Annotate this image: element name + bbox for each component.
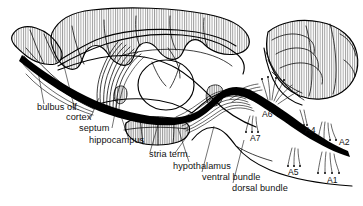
label-a4: A4 (305, 126, 316, 135)
label-septum: septum (79, 124, 109, 133)
label-a7: A7 (250, 134, 261, 143)
a7-cell-group-fibers (245, 116, 259, 133)
label-stria-term: stria term. (149, 150, 190, 159)
label-hypothalamus: hypothalamus (173, 162, 231, 171)
a1-cell-group-fibers (317, 152, 340, 174)
label-a1: A1 (327, 176, 338, 185)
label-hippocampus: hippocampus (89, 136, 144, 145)
label-bulbus-olf: bulbus olf. (37, 103, 79, 112)
label-a2: A2 (339, 138, 350, 147)
label-cortex: cortex (66, 113, 91, 122)
a5-cell-group-fibers (287, 148, 301, 167)
label-dorsal-bundle: dorsal bundle (232, 184, 288, 193)
cerebellum-structure (262, 14, 362, 106)
label-ventral-bundle: ventral bundle (202, 173, 260, 182)
brain-pathway-figure: bulbus olf. cortex septum hippocampus st… (0, 0, 363, 206)
label-a5: A5 (288, 168, 299, 177)
thalamus-structure (138, 60, 194, 110)
label-a6: A6 (262, 110, 273, 119)
